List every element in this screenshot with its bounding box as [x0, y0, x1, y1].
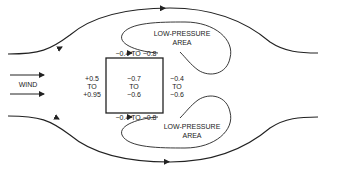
roof-line2: TO [122, 83, 146, 91]
side-bottom-coefficient: −0.4 TO −0.8 [106, 114, 166, 122]
windward-line3: +0.95 [80, 91, 104, 99]
low-pressure-loop-bottom [122, 96, 231, 148]
low-pressure-top-line1: LOW-PRESSURE [142, 30, 222, 38]
side-top-coefficient: −0.4 TO −0.8 [106, 50, 166, 58]
low-pressure-bottom-line2: AREA [152, 132, 232, 140]
windward-line2: TO [80, 83, 104, 91]
leeward-line3: −0.6 [165, 91, 189, 99]
low-pressure-bottom-line1: LOW-PRESSURE [152, 123, 232, 131]
roof-line3: −0.6 [122, 91, 146, 99]
windward-line1: +0.5 [80, 75, 104, 83]
wind-label: WIND [8, 81, 48, 89]
roof-line1: −0.7 [122, 75, 146, 83]
leeward-line1: −0.4 [165, 75, 189, 83]
low-pressure-top-line2: AREA [142, 39, 222, 47]
leeward-line2: TO [165, 83, 189, 91]
